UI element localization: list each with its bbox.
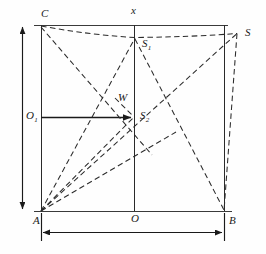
c-to-lower-right-line <box>41 27 152 155</box>
c-to-s1-to-s-curve <box>41 26 237 38</box>
geometry-figure: C x S S1 W S2 O1 A O B <box>0 0 266 254</box>
label-O1: O1 <box>26 110 38 124</box>
label-A: A <box>33 215 40 229</box>
a-to-s1-line <box>41 38 135 211</box>
label-S: S <box>245 27 251 41</box>
s-to-b-line <box>224 34 237 212</box>
label-B: B <box>229 215 236 229</box>
a-to-w-extended-line <box>41 132 176 211</box>
label-x: x <box>131 5 136 19</box>
label-S1: S1 <box>142 38 151 52</box>
label-W: W <box>118 92 127 106</box>
a-to-s-line <box>41 34 237 212</box>
label-O: O <box>131 213 139 227</box>
label-C: C <box>41 8 49 22</box>
s1-to-b-line <box>135 39 224 210</box>
a-to-s2-line <box>41 118 133 211</box>
label-S2: S2 <box>140 110 149 124</box>
